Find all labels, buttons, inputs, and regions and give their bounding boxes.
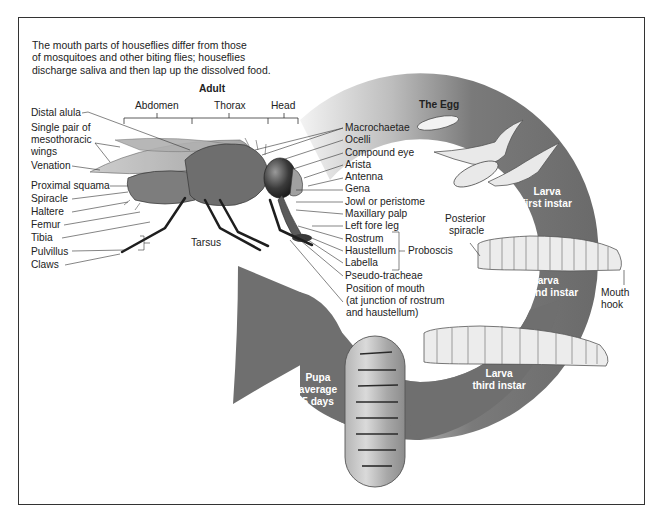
label-pupa-3: 5 days [288,396,348,408]
label-proboscis: Proboscis [408,245,453,257]
label-maxillary-palp: Maxillary palp [345,208,407,220]
label-the-egg: The Egg [419,99,459,111]
label-larva-first-2: first instar [512,198,582,210]
label-arista: Arista [345,159,371,171]
intro-line: The mouth parts of houseflies differ fro… [32,40,271,52]
label-macrochaetae: Macrochaetae [345,122,410,134]
label-larva-third-1: Larva [464,368,534,380]
region-abdomen: Abdomen [135,100,179,112]
label-mouth-1: Position of mouth [346,283,425,295]
label-mouth-hook-2: hook [601,299,623,311]
label-labella: Labella [345,257,378,269]
label-spiracle: Spiracle [31,193,68,205]
label-tibia: Tibia [31,232,53,244]
label-wings-2: mesothoracic [31,134,92,146]
label-antenna: Antenna [345,171,383,183]
label-mouth-hook-1: Mouth [601,287,629,299]
label-claws: Claws [31,259,59,271]
label-haltere: Haltere [31,206,64,218]
label-pupa-2: average [288,384,348,396]
label-gena: Gena [345,183,370,195]
adult-title: Adult [199,83,225,95]
intro-line: of mosquitoes and other biting flies; ho… [32,52,271,64]
intro-text: The mouth parts of houseflies differ fro… [32,40,271,77]
label-larva-first-1: Larva [512,186,582,198]
label-proximal-squama: Proximal squama [31,180,110,192]
label-mouth-2: (at junction of rostrum [346,295,445,307]
illustration [0,0,659,521]
label-pulvillus: Pulvillus [31,246,68,258]
pupa-drawing [345,336,405,487]
label-larva-second-2: second instar [505,287,585,299]
label-tarsus: Tarsus [191,237,221,249]
housefly-drawing [90,138,312,252]
label-posterior-2: spiracle [449,225,484,237]
label-venation: Venation [31,160,71,172]
region-head: Head [271,100,295,112]
label-femur: Femur [31,219,60,231]
label-larva-third-2: third instar [464,380,534,392]
label-pseudo-tracheae: Pseudo-tracheae [345,270,423,282]
label-distal-alula: Distal alula [31,107,81,119]
label-posterior-1: Posterior [445,213,486,225]
label-compound-eye: Compound eye [345,147,414,159]
label-left-fore-leg: Left fore leg [345,220,399,232]
intro-line: discharge saliva and then lap up the dis… [32,65,271,77]
label-pupa-1: Pupa [288,372,348,384]
label-ocelli: Ocelli [345,134,370,146]
label-mouth-3: and haustellum) [346,307,419,319]
label-wings-3: wings [31,146,57,158]
label-larva-second-1: Larva [505,275,585,287]
region-thorax: Thorax [214,100,246,112]
label-jowl: Jowl or peristome [345,196,425,208]
label-haustellum: Haustellum [345,245,396,257]
label-wings-1: Single pair of [31,122,90,134]
label-rostrum: Rostrum [345,233,384,245]
adult-region-bracket [124,113,298,124]
